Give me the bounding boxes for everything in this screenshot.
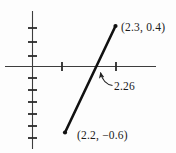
label-top-point: (2.3, 0.4): [121, 21, 165, 34]
coordinate-plot: (2.3, 0.4) (2.2, −0.6) 2.26: [0, 0, 176, 153]
figure-canvas: (2.3, 0.4) (2.2, −0.6) 2.26: [0, 0, 176, 153]
endpoint-bottom: [63, 130, 67, 134]
label-x-intercept: 2.26: [114, 80, 135, 92]
line-segment: [65, 26, 116, 133]
intercept-arrow-icon: [101, 73, 113, 86]
endpoint-top: [113, 24, 117, 28]
label-bottom-point: (2.2, −0.6): [77, 129, 128, 142]
